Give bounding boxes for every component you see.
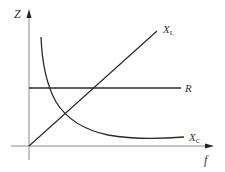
- xl-label-sub: L: [170, 29, 174, 37]
- x-axis-arrow-icon: [205, 144, 214, 149]
- xl-label: XL: [162, 23, 174, 37]
- curve-xc: XC: [41, 37, 201, 145]
- xc-label: XC: [188, 131, 201, 145]
- impedance-diagram: Z f R XL XC: [0, 0, 225, 172]
- y-axis-arrow-icon: [27, 9, 32, 18]
- y-axis-label: Z: [14, 7, 21, 21]
- curve-xl: XL: [29, 23, 174, 146]
- r-label: R: [184, 82, 192, 94]
- axes: Z f: [11, 7, 214, 167]
- curve-r: R: [29, 82, 192, 94]
- xc-label-sub: C: [196, 137, 201, 145]
- x-axis-label: f: [204, 153, 209, 167]
